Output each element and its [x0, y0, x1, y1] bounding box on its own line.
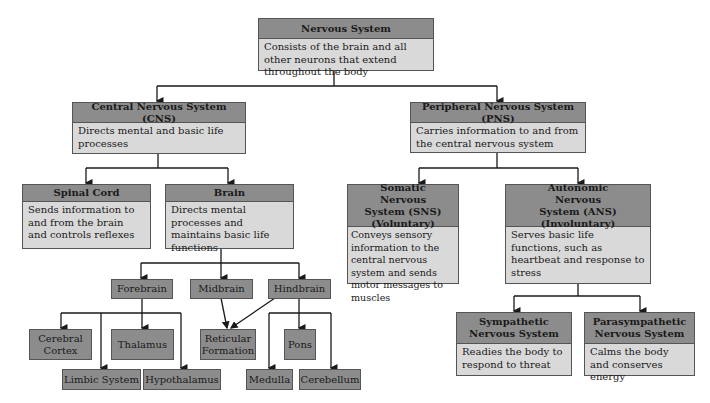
ans-title: Autonomic Nervous System (ANS) (Involunt… — [506, 185, 650, 227]
sns-desc: Conveys sensory information to the centr… — [348, 227, 458, 306]
medulla-node: Medulla — [246, 369, 293, 390]
cerebellum-node: Cerebellum — [299, 369, 361, 390]
brain-box: Brain Directs mental processes and maint… — [165, 184, 294, 249]
pns-box: Peripheral Nervous System (PNS) Carries … — [410, 102, 586, 153]
limbic-system-node: Limbic System — [62, 369, 141, 390]
sympathetic-desc: Readies the body to respond to threat — [457, 344, 571, 373]
forebrain-node: Forebrain — [111, 279, 173, 299]
spinal-cord-box: Spinal Cord Sends information to and fro… — [22, 184, 151, 249]
ans-desc: Serves basic life functions, such as hea… — [506, 227, 650, 281]
sns-box: Somatic Nervous System (SNS) (Voluntary)… — [347, 184, 459, 284]
cns-desc: Directs mental and basic life processes — [73, 123, 245, 152]
parasympathetic-desc: Calms the body and conserves energy — [585, 344, 694, 386]
hindbrain-node: Hindbrain — [268, 279, 331, 299]
reticular-formation-node: Reticular Formation — [200, 329, 256, 360]
parasympathetic-title: Parasympathetic Nervous System — [585, 313, 694, 344]
nervous-system-desc: Consists of the brain and all other neur… — [259, 39, 433, 81]
spinal-cord-title: Spinal Cord — [23, 185, 150, 202]
midbrain-node: Midbrain — [190, 279, 253, 299]
pons-node: Pons — [284, 329, 316, 360]
brain-title: Brain — [166, 185, 293, 202]
pns-title: Peripheral Nervous System (PNS) — [411, 103, 585, 123]
parasympathetic-box: Parasympathetic Nervous System Calms the… — [584, 312, 695, 376]
spinal-cord-desc: Sends information to and from the brain … — [23, 202, 150, 244]
hypothalamus-node: Hypothalamus — [143, 369, 221, 390]
sympathetic-title: Sympathetic Nervous System — [457, 313, 571, 344]
sympathetic-box: Sympathetic Nervous System Readies the b… — [456, 312, 572, 376]
nervous-system-title: Nervous System — [259, 19, 433, 39]
sns-title: Somatic Nervous System (SNS) (Voluntary) — [348, 185, 458, 227]
cns-title: Central Nervous System (CNS) — [73, 103, 245, 123]
nervous-system-box: Nervous System Consists of the brain and… — [258, 18, 434, 71]
thalamus-node: Thalamus — [111, 329, 174, 360]
cerebral-cortex-node: Cerebral Cortex — [29, 329, 92, 360]
pns-desc: Carries information to and from the cent… — [411, 123, 585, 152]
brain-desc: Directs mental processes and maintains b… — [166, 202, 293, 256]
cns-box: Central Nervous System (CNS) Directs men… — [72, 102, 246, 154]
ans-box: Autonomic Nervous System (ANS) (Involunt… — [505, 184, 651, 284]
